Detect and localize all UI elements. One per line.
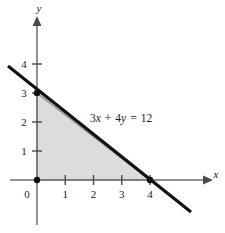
origin-point: [34, 177, 40, 183]
x-intercept-point: [147, 177, 153, 183]
x-tick-label-4: 4: [147, 188, 153, 200]
x-tick-label-1: 1: [63, 188, 69, 200]
y-tick-label-1: 1: [21, 145, 27, 157]
x-tick-label-3: 3: [119, 188, 125, 200]
y-axis-label: y: [36, 2, 42, 14]
x-tick-label-2: 2: [91, 188, 97, 200]
coordinate-plane: 0 1 2 3 4 1 2 3 4 x y 3x+4y=12: [0, 0, 225, 233]
equation-equals: =: [130, 112, 137, 124]
y-tick-label-2: 2: [21, 116, 27, 128]
equation-line: [8, 66, 191, 212]
y-intercept-point: [34, 90, 40, 96]
y-tick-label-3: 3: [21, 87, 27, 99]
graph-figure: 0 1 2 3 4 1 2 3 4 x y 3x+4y=12: [0, 0, 225, 233]
y-tick-label-4: 4: [21, 58, 27, 70]
equation-plus: +: [105, 112, 112, 124]
x-axis-label: x: [213, 168, 219, 180]
equation-var-y: y: [120, 112, 127, 125]
x-tick-label-0: 0: [24, 188, 30, 200]
equation-label: 3x+4y=12: [90, 112, 152, 125]
equation-var-x: x: [95, 112, 102, 124]
equation-rhs: 12: [141, 112, 153, 124]
